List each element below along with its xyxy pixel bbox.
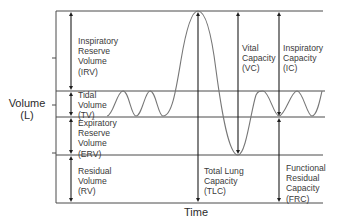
vc-label: Vital Capacity (VC): [242, 43, 275, 74]
x-axis-label: Time: [184, 206, 208, 218]
frc-label: Functional Residual Capacity (FRC): [286, 163, 326, 204]
tlc-label: Total Lung Capacity (TLC): [204, 166, 244, 197]
breathing-waveform: [107, 11, 322, 155]
rv-label: Residual Volume (RV): [78, 166, 111, 197]
y-axis-label-line1: Volume: [2, 98, 52, 110]
tv-label: Tidal Volume (TV): [78, 90, 107, 121]
y-axis-label: Volume (L): [2, 98, 52, 121]
ic-label: Inspiratory Capacity (IC): [283, 43, 323, 74]
erv-label: Expiratory Reserve Volume (ERV): [78, 118, 117, 159]
irv-label: Inspiratory Reserve Volume (IRV): [78, 36, 118, 77]
y-axis-label-line2: (L): [2, 110, 52, 122]
